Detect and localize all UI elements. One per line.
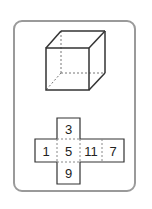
face-label: 5 — [65, 144, 72, 159]
net-cell-bottom: 9 — [57, 162, 80, 184]
net-cell-top: 3 — [57, 118, 80, 140]
face-label: 9 — [65, 166, 72, 181]
net-cell-far-right: 7 — [102, 140, 124, 162]
face-label: 1 — [42, 144, 49, 159]
face-label: 11 — [84, 144, 98, 159]
net-cell-right: 11 — [80, 140, 102, 162]
net-cell-center: 5 — [57, 140, 80, 162]
net-cell-left: 1 — [35, 140, 57, 162]
face-label: 7 — [109, 144, 116, 159]
face-label: 3 — [65, 122, 72, 137]
